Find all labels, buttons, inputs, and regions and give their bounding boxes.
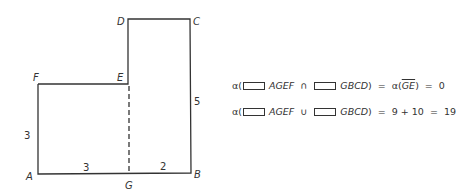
paren: )	[415, 80, 419, 91]
vertex-label-e: E	[117, 72, 124, 83]
equation-union: α( AGEF ∪ GBCD ) = 9 + 10 = 19	[232, 106, 456, 117]
equals: =	[378, 106, 386, 117]
equals: =	[425, 80, 433, 91]
equals: =	[378, 80, 386, 91]
dimension-bc: 5	[194, 96, 200, 107]
result: 0	[439, 80, 445, 91]
set-gbcd: GBCD	[340, 106, 368, 117]
dimension-af: 3	[24, 130, 30, 141]
dimension-gb: 2	[160, 161, 166, 172]
vertex-label-c: C	[193, 16, 200, 27]
set-agef: AGEF	[269, 106, 294, 117]
polygon-outline	[38, 19, 191, 174]
sum-expression: 9 + 10	[392, 106, 424, 117]
vertex-label-a: A	[25, 171, 33, 182]
union-operator: ∪	[300, 106, 307, 117]
vertex-label-d: D	[117, 16, 125, 27]
vertex-label-g: G	[125, 180, 133, 191]
rectangle-icon	[314, 82, 336, 90]
rectangle-icon	[314, 108, 336, 116]
paren: )	[368, 80, 372, 91]
vertex-label-f: F	[33, 72, 39, 83]
dimension-ag: 3	[83, 162, 89, 173]
equals: =	[430, 106, 438, 117]
segment-ge: GE	[402, 80, 415, 91]
rectangle-icon	[243, 82, 265, 90]
paren: )	[368, 106, 372, 117]
vertex-label-b: B	[194, 169, 201, 180]
measure-symbol: α(	[232, 80, 242, 91]
result: 19	[444, 106, 456, 117]
measure-symbol: α(	[232, 106, 242, 117]
rectangle-icon	[243, 108, 265, 116]
equation-intersection: α( AGEF ∩ GBCD ) = α( GE ) = 0	[232, 80, 445, 91]
set-gbcd: GBCD	[340, 80, 368, 91]
intersection-operator: ∩	[300, 80, 307, 91]
area-diagram: D C F E A G B 3 3 2 5	[0, 0, 469, 195]
set-agef: AGEF	[269, 80, 294, 91]
measure-symbol: α(	[392, 80, 402, 91]
